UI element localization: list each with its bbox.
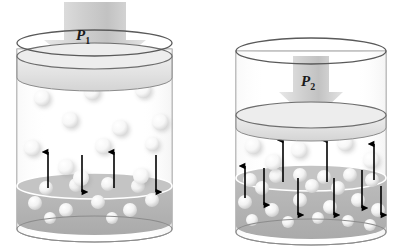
left-piston[interactable] (17, 43, 172, 91)
right-piston[interactable] (236, 102, 386, 141)
figure-canvas: P1 (0, 0, 404, 251)
right-piston-top-face (236, 102, 386, 128)
right-cylinder (236, 38, 386, 245)
low-pressure-container: P1 (17, 2, 172, 242)
high-pressure-container: P2 (236, 38, 386, 245)
left-cylinder (17, 30, 172, 242)
henrys-law-diagram: P1 (0, 0, 404, 251)
